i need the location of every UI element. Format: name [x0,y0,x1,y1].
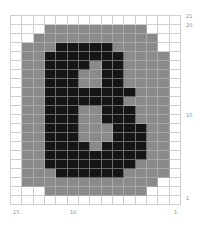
grid-cell [45,142,56,151]
grid-cell [158,25,169,34]
grid-cell [56,124,67,133]
grid-cell [79,25,90,34]
grid-cell [170,79,181,88]
grid-cell [170,106,181,115]
grid-cell [90,187,101,196]
grid-cell [136,79,147,88]
grid-cell [90,43,101,52]
grid-cell [79,187,90,196]
grid-cell [147,34,158,43]
grid-cell [90,79,101,88]
grid-cell [102,52,113,61]
grid-cell [124,70,135,79]
grid-cell [113,160,124,169]
grid-cell [124,115,135,124]
grid-cell [102,34,113,43]
grid-cell [113,97,124,106]
grid-cell [45,115,56,124]
grid-cell [68,25,79,34]
grid-cell [68,160,79,169]
grid-cell [124,52,135,61]
grid-cell [34,187,45,196]
grid-cell [56,34,67,43]
grid-cell [124,160,135,169]
grid-cell [68,142,79,151]
grid-cell [90,52,101,61]
grid-cell [124,61,135,70]
grid-cell [158,169,169,178]
grid-cell [90,169,101,178]
grid-cell [124,88,135,97]
grid-cell [158,178,169,187]
grid-cell [22,97,33,106]
grid-cell [90,133,101,142]
grid-cell [147,151,158,160]
grid-cell [170,115,181,124]
grid-cell [34,61,45,70]
grid-cell [56,115,67,124]
grid-cell [11,196,22,205]
grid-cell [45,151,56,160]
grid-cell [79,124,90,133]
grid-cell [170,97,181,106]
grid-cell [102,124,113,133]
grid-cell [147,115,158,124]
grid-cell [136,97,147,106]
grid-cell [124,97,135,106]
grid-cell [102,70,113,79]
grid-cell [158,115,169,124]
grid-cell [11,178,22,187]
grid-cell [158,187,169,196]
grid-cell [158,79,169,88]
grid-cell [158,97,169,106]
grid-cell [11,43,22,52]
grid-cell [45,196,56,205]
grid-cell [147,61,158,70]
grid-cell [124,34,135,43]
grid-cell [11,160,22,169]
grid-cell [45,70,56,79]
grid-cell [11,115,22,124]
grid-cell [11,106,22,115]
grid-cell [68,34,79,43]
grid-cell [113,34,124,43]
grid-cell [22,79,33,88]
grid-cell [158,16,169,25]
grid-cell [22,142,33,151]
grid-cell [113,115,124,124]
grid-cell [113,79,124,88]
grid-cell [34,178,45,187]
grid-cell [56,106,67,115]
grid-cell [90,106,101,115]
grid-cell [170,133,181,142]
grid-cell [102,133,113,142]
grid-cell [68,124,79,133]
grid-cell [68,187,79,196]
grid-cell [68,70,79,79]
grid-cell [22,169,33,178]
grid-cell [113,133,124,142]
grid-cell [90,34,101,43]
grid-cell [34,43,45,52]
grid-cell [34,52,45,61]
grid-cell [124,25,135,34]
grid-cell [170,142,181,151]
grid-cell [124,196,135,205]
grid-cell [45,124,56,133]
grid-cell [56,70,67,79]
grid-cell [102,151,113,160]
grid-cell [45,106,56,115]
grid-cell [102,43,113,52]
grid-cell [113,169,124,178]
grid-cell [79,196,90,205]
grid-cell [56,52,67,61]
grid-cell [22,43,33,52]
grid-cell [136,178,147,187]
grid-cell [22,25,33,34]
grid-cell [147,133,158,142]
pixel-chart-grid [10,15,181,205]
grid-cell [147,79,158,88]
grid-cell [158,196,169,205]
grid-cell [56,196,67,205]
grid-cell [170,169,181,178]
